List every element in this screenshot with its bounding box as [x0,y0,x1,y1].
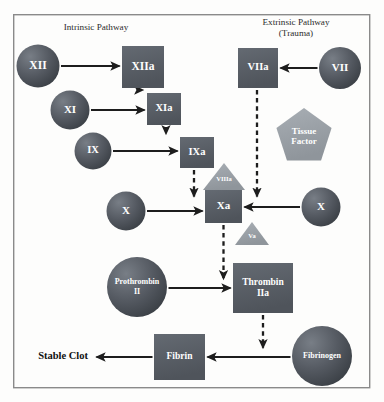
coagulation-cascade-diagram: XIIXIIaXIXIaIXIXaVIIIaXXaXVaVIIaVIITissu… [0,0,384,402]
tf-label: Factor [291,136,316,146]
f9-label: IX [87,144,99,155]
f9a-label: IXa [189,146,207,157]
f5a-label: Va [248,232,256,239]
prothrombin-label: Prothrombin [115,277,160,286]
f12a-label: XIIa [131,60,154,72]
edge-layer [61,66,318,357]
f11a-label: XIa [156,102,174,113]
stable-clot-label: Stable Clot [38,350,88,361]
thrombin-label: IIa [257,288,269,298]
header-extrinsic: (Trauma) [279,28,313,38]
f10r-label: X [317,200,325,212]
tf-label: Tissue [292,126,316,136]
prothrombin-label: II [134,287,140,296]
header-intrinsic: Intrinsic Pathway [64,22,129,32]
fibrinogen-label: Fibrinogen [303,351,341,360]
f12-label: XII [29,59,47,71]
f10a-label: Xa [217,199,231,211]
thrombin-label: Thrombin [242,277,284,287]
diagram-canvas: XIIXIIaXIXIaIXIXaVIIIaXXaXVaVIIaVIITissu… [0,0,384,402]
f8a-label: VIIIa [216,175,232,182]
fibrin-label: Fibrin [167,351,194,361]
f10l-label: X [122,204,130,216]
node-layer [17,45,362,387]
header-extrinsic: Extrinsic Pathway [262,17,330,27]
f7a-label: VIIa [247,61,269,72]
f7-label: VII [332,61,349,73]
f11-label: XI [64,103,76,115]
